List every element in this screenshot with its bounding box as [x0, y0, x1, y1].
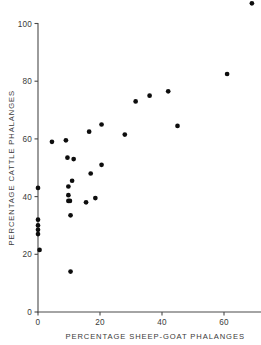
- data-point: [70, 178, 75, 183]
- data-point: [64, 138, 69, 143]
- y-axis-tick-label: 80: [22, 77, 32, 86]
- data-point: [68, 269, 73, 274]
- data-point: [66, 193, 71, 198]
- data-point: [122, 132, 127, 137]
- data-point: [50, 139, 55, 144]
- data-point: [66, 184, 71, 189]
- data-point: [84, 200, 89, 205]
- data-point: [36, 217, 41, 222]
- y-axis-tick-label: 20: [22, 250, 32, 259]
- data-point: [133, 99, 138, 104]
- data-point: [175, 124, 180, 129]
- y-axis-title: PERCENTAGE CATTLE PHALANGES: [7, 90, 16, 245]
- data-point: [99, 163, 104, 168]
- x-axis-tick-label: 20: [95, 318, 105, 327]
- x-axis-title: PERCENTAGE SHEEP-GOAT PHALANGES: [65, 332, 244, 341]
- data-point: [68, 199, 73, 204]
- data-point: [87, 129, 92, 134]
- scatter-plot-figure: 0204060801000204060PERCENTAGE SHEEP-GOAT…: [0, 0, 261, 345]
- data-point: [166, 89, 171, 94]
- data-point: [65, 155, 70, 160]
- data-point: [36, 227, 41, 232]
- data-point: [250, 1, 255, 6]
- data-point: [36, 186, 41, 191]
- y-axis-tick-label: 100: [18, 20, 33, 29]
- x-axis-tick-label: 0: [36, 318, 41, 327]
- data-point: [68, 213, 73, 218]
- data-point: [88, 171, 93, 176]
- data-point: [37, 248, 42, 253]
- data-point: [93, 196, 98, 201]
- y-axis-tick-label: 0: [27, 308, 32, 317]
- data-point: [99, 122, 104, 127]
- data-point: [36, 232, 41, 237]
- y-axis-tick-label: 60: [22, 135, 32, 144]
- y-axis-tick-label: 40: [22, 193, 32, 202]
- data-point: [36, 223, 41, 228]
- x-axis-tick-label: 60: [219, 318, 229, 327]
- data-point: [147, 93, 152, 98]
- data-point: [225, 72, 230, 77]
- data-point: [71, 157, 76, 162]
- plot-canvas: 0204060801000204060PERCENTAGE SHEEP-GOAT…: [0, 0, 261, 345]
- x-axis-tick-label: 40: [157, 318, 167, 327]
